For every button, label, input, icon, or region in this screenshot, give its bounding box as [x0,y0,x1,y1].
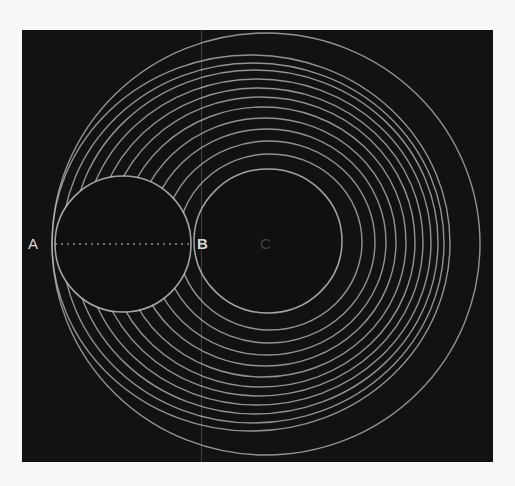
ring-diagram [22,30,493,462]
label-c: C [260,236,271,251]
label-a: A [28,236,38,251]
label-b: B [197,236,208,251]
diagram-figure: A B C [22,30,493,462]
